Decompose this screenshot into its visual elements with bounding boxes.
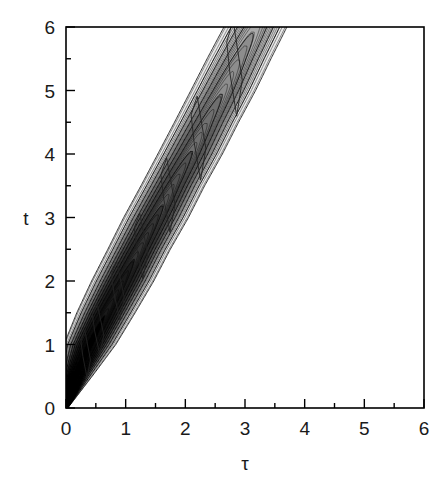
x-tick-label-1: 1 [120, 418, 131, 439]
figure-canvas: 01234560123456τt [0, 0, 448, 489]
x-tick-label-5: 5 [359, 418, 370, 439]
y-tick-label-1: 1 [44, 335, 55, 356]
y-tick-label-4: 4 [44, 144, 55, 165]
y-tick-label-0: 0 [44, 398, 55, 419]
x-tick-label-2: 2 [180, 418, 191, 439]
y-tick-label-3: 3 [44, 208, 55, 229]
y-axis-title: t [23, 208, 29, 229]
x-tick-label-0: 0 [61, 418, 72, 439]
x-tick-label-3: 3 [240, 418, 251, 439]
y-tick-label-2: 2 [44, 271, 55, 292]
x-tick-label-4: 4 [299, 418, 310, 439]
x-axis-title: τ [241, 453, 249, 474]
y-tick-label-6: 6 [44, 17, 55, 38]
contour-plot-figure: 01234560123456τt [0, 0, 448, 489]
y-tick-label-5: 5 [44, 81, 55, 102]
x-tick-label-6: 6 [419, 418, 430, 439]
